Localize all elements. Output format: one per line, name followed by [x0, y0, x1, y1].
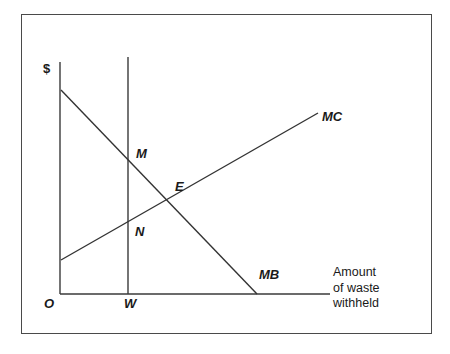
- origin-label: O: [44, 297, 54, 310]
- y-axis-label: $: [43, 62, 50, 75]
- mb-curve-line: [61, 90, 257, 294]
- x-axis-caption: Amount of waste withheld: [333, 265, 380, 312]
- mc-curve-line: [61, 113, 318, 260]
- w-point-label: W: [124, 297, 136, 310]
- e-point-label: E: [175, 180, 184, 193]
- figure-container: $ O W M E N MC MB Amount of waste withhe…: [0, 0, 450, 354]
- mc-curve-label: MC: [322, 110, 342, 123]
- m-point-label: M: [136, 147, 147, 160]
- mb-curve-label: MB: [259, 268, 279, 281]
- plot-canvas: [0, 0, 450, 354]
- x-axis-caption-line-1: Amount: [333, 265, 380, 281]
- n-point-label: N: [135, 225, 144, 238]
- x-axis-caption-line-3: withheld: [333, 296, 380, 312]
- x-axis-caption-line-2: of waste: [333, 281, 380, 297]
